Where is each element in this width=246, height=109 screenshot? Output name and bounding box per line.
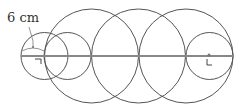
right-angle-mark-right [207,59,212,65]
right-angle-mark-left [35,59,41,64]
center-dot-right [208,54,211,57]
radius-arc-marker [22,48,44,51]
radius-label: 6 cm [7,11,39,24]
leader-line [29,27,33,41]
radius-point [32,46,34,48]
